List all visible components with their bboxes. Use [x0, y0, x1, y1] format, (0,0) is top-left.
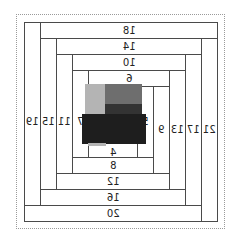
strip-21: 21: [201, 38, 218, 222]
strip-11: 11: [56, 54, 73, 190]
strip-12: 12: [56, 173, 170, 190]
strip-20: 20: [24, 205, 202, 222]
strip-label: 19: [26, 117, 39, 127]
strip-label: 16: [107, 193, 120, 203]
strip-label: 8: [110, 161, 116, 171]
strip-label: 21: [203, 125, 216, 135]
strip-label: 13: [171, 125, 184, 135]
strip-label: 4: [110, 148, 116, 158]
strip-13: 13: [169, 70, 186, 190]
center-patch-light-bottom: [88, 143, 106, 146]
strip-10: 10: [72, 54, 186, 71]
strip-14: 14: [56, 38, 202, 55]
strip-label: 12: [107, 177, 120, 187]
strip-label: 10: [123, 58, 136, 68]
strip-label: 9: [158, 125, 164, 135]
center-patch-light: [85, 84, 106, 114]
strip-label: 18: [123, 26, 136, 36]
strip-label: 11: [58, 117, 71, 127]
strip-label: 17: [187, 125, 200, 135]
strip-label: 15: [42, 117, 55, 127]
strip-18: 18: [40, 22, 218, 39]
strip-16: 16: [40, 189, 186, 206]
strip-17: 17: [185, 54, 202, 206]
strip-8: 8: [72, 157, 154, 174]
center-patch-darkest: [82, 114, 146, 144]
strip-19: 19: [24, 22, 41, 222]
strip-label: 6: [126, 74, 132, 84]
strip-15: 15: [40, 38, 57, 206]
strip-9: 9: [153, 86, 170, 174]
center-patch-mid: [105, 84, 142, 105]
strip-label: 14: [123, 42, 136, 52]
strip-label: 20: [107, 209, 120, 219]
